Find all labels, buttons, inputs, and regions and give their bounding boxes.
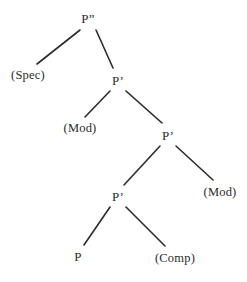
tree-branch-n5-n7 <box>84 207 110 245</box>
tree-node-n7: P <box>74 250 81 263</box>
tree-node-n2: P’ <box>112 74 124 87</box>
tree-branch-n5-n8 <box>126 207 165 246</box>
tree-node-n6: (Mod) <box>204 186 237 199</box>
tree-node-n1: (Spec) <box>11 69 45 82</box>
tree-node-n5: P’ <box>112 190 124 203</box>
tree-branch-n2-n4 <box>126 91 162 123</box>
tree-node-n3: (Mod) <box>64 122 97 135</box>
tree-branch-n2-n3 <box>85 91 110 117</box>
tree-edges-layer <box>0 0 247 282</box>
tree-branch-n4-n6 <box>176 146 213 180</box>
tree-branch-n0-n1 <box>37 30 80 64</box>
syntax-tree-figure: P”(Spec)P’(Mod)P’P’(Mod)P(Comp) <box>0 0 247 282</box>
tree-branch-n4-n5 <box>124 146 160 185</box>
tree-node-n4: P’ <box>162 129 174 142</box>
tree-node-n8: (Comp) <box>155 252 195 265</box>
tree-branch-n0-n2 <box>96 30 113 68</box>
tree-node-n0: P” <box>81 12 94 25</box>
tree-edge-group <box>37 30 213 246</box>
